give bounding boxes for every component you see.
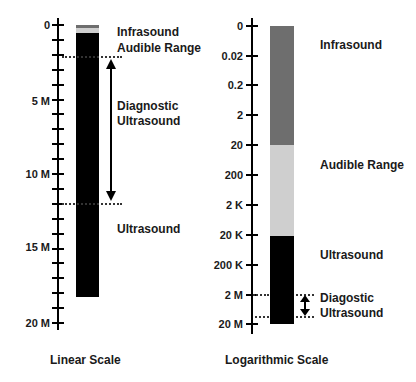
arrows-layer: [0, 0, 416, 382]
linear-diagnostic-arrow: [106, 59, 116, 201]
log-diagnostic-arrow: [300, 295, 310, 316]
